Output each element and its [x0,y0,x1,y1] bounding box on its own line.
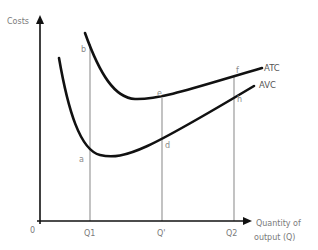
x-tick-q2: Q2 [226,229,237,238]
x-tick-qprime: Q' [157,229,166,238]
y-axis-label: Costs [7,17,29,26]
avc-label: AVC [259,80,276,90]
point-f-label: f [236,66,239,75]
cost-curves-diagram: Costs 0 Q1 Q' Q2 Quantity of output (Q) … [0,0,318,250]
atc-label: ATC [264,63,280,73]
point-e-label: e [157,89,162,98]
point-b-label: b [81,45,86,54]
origin-label: 0 [30,226,35,235]
x-axis-label-line2: output (Q) [254,233,295,242]
point-a-label: a [79,155,84,164]
y-axis-arrow-icon [36,15,44,24]
x-axis-arrow-icon [243,217,252,225]
avc-curve [59,58,254,156]
point-d-label: d [165,141,170,150]
point-h-label: h [237,95,242,104]
x-axis-label-line1: Quantity of [256,219,301,228]
x-tick-q1: Q1 [84,229,95,238]
